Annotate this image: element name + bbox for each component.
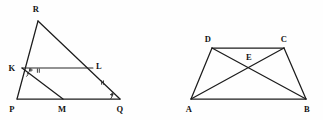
label-D: D	[205, 34, 211, 44]
label-K: K	[9, 63, 16, 73]
label-P: P	[9, 104, 14, 114]
label-E: E	[246, 52, 252, 62]
label-Q: Q	[117, 104, 124, 114]
segment-CB	[284, 48, 306, 99]
geometry-figure-canvas: R K L P M Q D C E A B	[0, 0, 323, 120]
segment-DB	[212, 48, 306, 99]
angle-mark-at-K	[26, 68, 39, 77]
label-C: C	[281, 34, 287, 44]
triangle-pqr-group: R K L P M Q	[9, 4, 124, 114]
segment-RP	[17, 21, 38, 99]
angle-mark-at-Q	[102, 81, 114, 99]
segment-AD	[191, 48, 212, 99]
label-L: L	[96, 61, 102, 71]
label-A: A	[186, 104, 193, 114]
label-R: R	[33, 4, 40, 14]
label-M: M	[58, 104, 66, 114]
segment-RQ	[38, 21, 120, 99]
segment-AC	[191, 48, 284, 99]
label-B: B	[304, 104, 310, 114]
geometry-svg: R K L P M Q D C E A B	[0, 0, 323, 120]
trapezoid-abcd-group: D C E A B	[186, 34, 310, 114]
